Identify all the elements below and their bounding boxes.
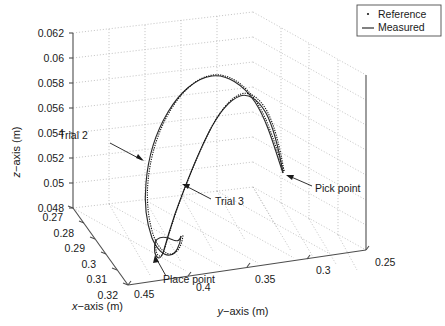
trial-2-reference-curve: [147, 75, 284, 254]
pick-point-arrow-head: [286, 175, 294, 180]
axis-lines: [73, 33, 366, 285]
grid-back-right-wall: [253, 12, 366, 250]
z-axis-title-rest: −axis (m): [10, 126, 22, 172]
trial-2-trajectory: [145, 75, 284, 255]
annotation-place-point: Place point: [153, 255, 215, 285]
annotation-pick-point: Pick point: [286, 175, 361, 194]
z-tick-label: 0.058: [38, 77, 64, 89]
chart-root: 0.062 0.06 0.058 0.056 0.054 0.052 0.05 …: [0, 0, 445, 326]
x-axis-title-rest: −axis (m): [78, 300, 124, 312]
y-tick-label: 0.45: [134, 288, 155, 300]
y-axis-title: y−axis (m): [216, 305, 268, 317]
trial-3-label: Trial 3: [215, 195, 244, 207]
trial-2-measured-curve: [145, 76, 283, 255]
grid-back-left-wall: [73, 12, 253, 208]
legend-label-reference: Reference: [378, 8, 427, 20]
trial-3-trajectory: [155, 93, 284, 258]
legend[interactable]: Reference Measured: [357, 5, 441, 36]
trial-2-arrow-head: [136, 154, 144, 161]
x-axis-title: x−axis (m): [71, 300, 123, 312]
legend-label-measured: Measured: [378, 21, 425, 33]
z-tick-label: 0.052: [38, 152, 64, 164]
annotation-trial-3: Trial 3: [182, 184, 244, 207]
3d-trajectory-plot: 0.062 0.06 0.058 0.056 0.054 0.052 0.05 …: [0, 0, 445, 326]
y-axis-title-rest: −axis (m): [223, 305, 269, 317]
z-tick-labels: 0.062 0.06 0.058 0.056 0.054 0.052 0.05 …: [38, 27, 64, 214]
trial-3-arrow-head: [182, 184, 190, 189]
y-tick-label: 0.35: [255, 273, 276, 285]
pick-point-label: Pick point: [315, 182, 361, 194]
trial-3-reference-curve: [156, 93, 284, 256]
z-tick-label: 0.05: [44, 177, 65, 189]
x-tick-label: 0.27: [43, 211, 64, 223]
x-tick-label: 0.29: [65, 242, 86, 254]
z-tick-label: 0.06: [44, 52, 65, 64]
z-axis-title: z−axis (m): [10, 126, 22, 178]
z-axis-ticks: [69, 33, 73, 208]
z-tick-label: 0.056: [38, 102, 64, 114]
trial-2-label: Trial 2: [59, 129, 88, 141]
annotation-trial-2: Trial 2: [59, 129, 144, 161]
reference-dot-icon: [367, 13, 369, 15]
place-point-label: Place point: [163, 273, 215, 285]
y-tick-label: 0.3: [316, 264, 331, 276]
y-tick-label: 0.25: [375, 256, 396, 268]
z-tick-label: 0.062: [38, 27, 64, 39]
x-tick-label: 0.31: [87, 273, 108, 285]
x-tick-label: 0.28: [54, 227, 75, 239]
x-tick-label: 0.3: [81, 258, 96, 270]
